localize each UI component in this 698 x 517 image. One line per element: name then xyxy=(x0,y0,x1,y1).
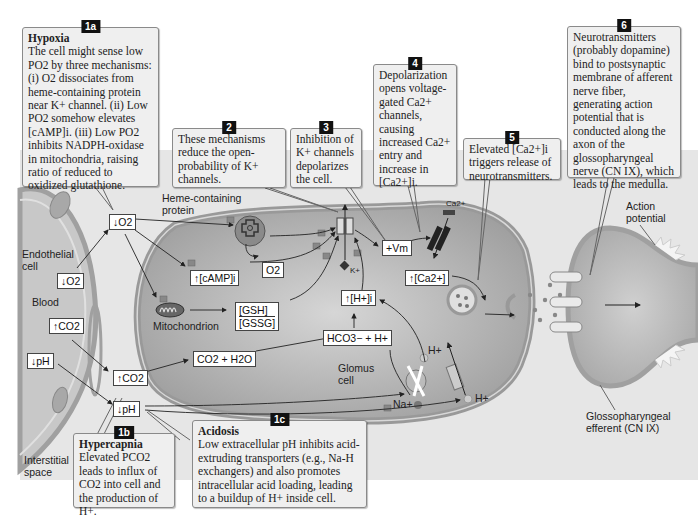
box-ca-intracellular: ↑[Ca2+] xyxy=(405,270,449,286)
callout-3: 3 Inhibition of K+ channels depolarizes … xyxy=(290,128,362,188)
afferent-nerve-terminal xyxy=(550,228,698,386)
callout-text: Low extracellular pH inhibits acid-extru… xyxy=(198,438,360,504)
label-mitochondrion: Mitochondrion xyxy=(153,320,219,332)
label-interstitial-space: Interstitial space xyxy=(24,454,74,478)
box-high-co2: ↑CO2 xyxy=(113,370,148,386)
label-endothelial-cell: Endothelial cell xyxy=(22,248,72,272)
box-camp: ↑[cAMP]i xyxy=(190,270,239,286)
callout-title: Hypercapnia xyxy=(79,438,169,451)
step-badge-4: 4 xyxy=(408,57,422,70)
gssg-label: [GSSG] xyxy=(239,317,275,329)
label-h-ion-outside: H+ xyxy=(475,392,489,404)
heme-protein-icon xyxy=(235,216,265,246)
box-gsh-gssg-ratio: [GSH] [GSSG] xyxy=(235,302,279,331)
callout-1c-acidosis: 1c Acidosis Low extracellular pH inhibit… xyxy=(192,420,367,508)
callout-text: These mechanisms reduce the open-probabi… xyxy=(178,133,265,185)
step-badge-3: 3 xyxy=(319,121,333,134)
box-low-o2-blood: ↓O2 xyxy=(57,273,84,289)
callout-2: 2 These mechanisms reduce the open-proba… xyxy=(172,128,286,188)
label-h-ion-inside: H+ xyxy=(428,344,442,356)
box-low-ph: ↓pH xyxy=(113,401,140,417)
label-glossopharyngeal-efferent: Glossopharyngeal efferent (CN IX) xyxy=(586,410,698,434)
callout-1a-hypoxia: 1a Hypoxia The cell might sense low PO2 … xyxy=(22,27,159,187)
callout-text: Depolarization opens voltage-gated Ca2+ … xyxy=(379,69,450,188)
label-blood: Blood xyxy=(32,296,59,308)
step-badge-5: 5 xyxy=(505,131,519,144)
label-na-ion: Na+ xyxy=(393,398,413,410)
step-badge-2: 2 xyxy=(222,121,236,134)
label-ca-ion: Ca2+ xyxy=(446,198,465,210)
step-badge-1c: 1c xyxy=(270,413,289,426)
callout-text: Elevated [Ca2+]i triggers release of neu… xyxy=(469,143,552,182)
label-k-ion: K+ xyxy=(350,265,360,277)
callout-title: Acidosis xyxy=(198,425,361,438)
box-co2-h2o: CO2 + H2O xyxy=(193,351,256,367)
label-action-potential: Action potential xyxy=(626,200,676,224)
step-badge-1a: 1a xyxy=(81,20,100,33)
gsh-label: [GSH] xyxy=(239,304,275,317)
box-high-co2-blood: ↑CO2 xyxy=(49,318,84,334)
label-glomus-cell: Glomus cell xyxy=(338,362,374,386)
box-h-intracellular: ↑[H+]i xyxy=(341,290,376,306)
box-low-ph-blood: ↓pH xyxy=(27,353,54,369)
box-membrane-potential: +Vm xyxy=(382,240,412,256)
mitochondrion-icon xyxy=(156,303,184,317)
callout-4: 4 Depolarization opens voltage-gated Ca2… xyxy=(373,64,457,186)
callout-text: Neurotransmitters (probably dopamine) bi… xyxy=(573,31,674,190)
box-hco3-h: HCO3− + H+ xyxy=(323,330,392,346)
callout-5: 5 Elevated [Ca2+]i triggers release of n… xyxy=(463,138,561,180)
box-o2-released: O2 xyxy=(262,262,284,278)
callout-title: Hypoxia xyxy=(28,32,153,45)
glomus-cell xyxy=(137,204,532,421)
glomus-cell-diagram: 1a Hypoxia The cell might sense low PO2 … xyxy=(0,0,698,517)
callout-text: The cell might sense low PO2 by three me… xyxy=(28,45,152,191)
callout-text: Inhibition of K+ channels depolarizes th… xyxy=(296,133,354,185)
box-low-o2: ↓O2 xyxy=(109,214,136,230)
callout-text: Elevated PCO2 leads to influx of CO2 int… xyxy=(79,451,160,517)
step-badge-1b: 1b xyxy=(114,426,134,439)
callout-6: 6 Neurotransmitters (probably dopamine) … xyxy=(567,26,681,178)
label-heme-protein: Heme-containing protein xyxy=(162,192,242,216)
callout-1b-hypercapnia: 1b Hypercapnia Elevated PCO2 leads to in… xyxy=(73,433,175,508)
step-badge-6: 6 xyxy=(617,19,631,32)
